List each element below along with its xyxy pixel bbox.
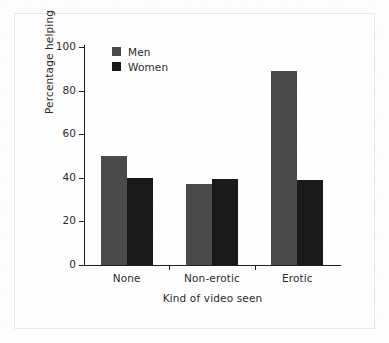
x-axis-title: Kind of video seen	[84, 292, 341, 304]
y-axis-tick-label: 80	[62, 84, 76, 96]
y-axis-title: Percentage helping	[43, 0, 55, 114]
y-axis-tick: 20	[79, 221, 84, 222]
y-axis-tick: 100	[79, 47, 84, 48]
legend-label-men: Men	[128, 46, 151, 58]
legend-item-men: Men	[112, 44, 168, 59]
legend-label-women: Women	[128, 61, 168, 73]
x-axis-category-label: Erotic	[237, 272, 357, 284]
legend-swatch-men-icon	[112, 47, 121, 56]
x-axis-tick	[169, 265, 170, 270]
y-axis-tick: 60	[79, 134, 84, 135]
legend-item-women: Women	[112, 59, 168, 74]
bar-women-none	[127, 178, 153, 265]
y-axis-tick: 40	[79, 178, 84, 179]
figure-root: Percentage helping Kind of video seen 02…	[0, 0, 389, 343]
bar-men-none	[101, 156, 127, 265]
y-axis-tick-label: 40	[62, 171, 76, 183]
y-axis-tick: 80	[79, 91, 84, 92]
x-axis-tick	[255, 265, 256, 270]
bar-women-non-erotic	[212, 179, 238, 265]
plot-area: 020406080100	[84, 47, 340, 265]
y-axis-tick-label: 100	[56, 40, 76, 52]
bar-men-erotic	[271, 71, 297, 265]
y-axis-tick-label: 60	[62, 127, 76, 139]
bar-women-erotic	[297, 180, 323, 265]
legend-swatch-women-icon	[112, 62, 121, 71]
bar-men-non-erotic	[186, 184, 212, 265]
y-axis-tick-label: 0	[69, 258, 76, 270]
y-axis-tick: 0	[79, 265, 84, 266]
chart-legend: Men Women	[112, 44, 168, 74]
y-axis-tick-label: 20	[62, 214, 76, 226]
x-axis-spine	[84, 265, 341, 266]
